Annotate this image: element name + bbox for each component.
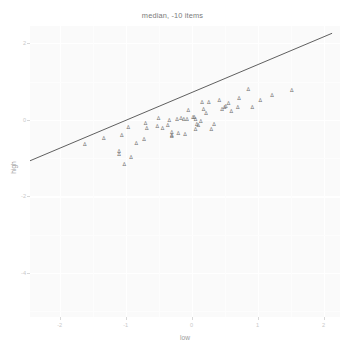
data-point: Δ — [183, 133, 187, 138]
y-tick-mark — [27, 273, 30, 274]
y-axis-title: high — [10, 148, 17, 188]
x-tick-mark — [258, 317, 259, 320]
data-point: Δ — [210, 127, 214, 132]
x-tick-mark — [192, 317, 193, 320]
data-point: Δ — [250, 105, 254, 110]
data-point: Δ — [157, 116, 161, 121]
data-point: Δ — [200, 100, 204, 105]
data-point: Δ — [207, 101, 211, 106]
data-point: Δ — [142, 138, 146, 143]
data-point: Δ — [236, 105, 240, 110]
data-point: Δ — [194, 127, 198, 132]
data-point: Δ — [212, 123, 216, 128]
y-tick-mark — [27, 120, 30, 121]
data-point: Δ — [237, 96, 241, 101]
plot-panel: ΔΔΔΔΔΔΔΔΔΔΔΔΔΔΔΔΔΔΔΔΔΔΔΔΔΔΔΔΔΔΔΔΔΔΔΔΔΔΔΔ… — [30, 26, 340, 317]
data-point: Δ — [199, 119, 203, 124]
x-tick-label: -1 — [123, 322, 128, 328]
data-point: Δ — [185, 118, 189, 123]
data-point: Δ — [102, 136, 106, 141]
x-tick-mark — [324, 317, 325, 320]
y-tick-label: 0 — [23, 117, 26, 123]
chart-figure: median, -10 items ΔΔΔΔΔΔΔΔΔΔΔΔΔΔΔΔΔΔΔΔΔΔ… — [0, 0, 345, 356]
data-point: Δ — [123, 162, 127, 167]
y-tick-label: -4 — [21, 270, 26, 276]
data-point: Δ — [290, 88, 294, 93]
data-point: Δ — [187, 109, 191, 114]
data-point: Δ — [258, 98, 262, 103]
y-tick-mark — [27, 43, 30, 44]
x-axis-title: low — [30, 334, 340, 341]
y-tick-mark — [27, 196, 30, 197]
data-point: Δ — [229, 110, 233, 115]
data-point: Δ — [144, 121, 148, 126]
data-points: ΔΔΔΔΔΔΔΔΔΔΔΔΔΔΔΔΔΔΔΔΔΔΔΔΔΔΔΔΔΔΔΔΔΔΔΔΔΔΔΔ… — [30, 26, 340, 317]
data-point: Δ — [83, 142, 87, 147]
data-point: Δ — [218, 99, 222, 104]
x-tick-label: 0 — [190, 322, 193, 328]
x-tick-label: -2 — [57, 322, 62, 328]
data-point: Δ — [145, 127, 149, 132]
data-point: Δ — [126, 126, 130, 131]
chart-title: median, -10 items — [0, 11, 345, 20]
data-point: Δ — [204, 112, 208, 117]
data-point: Δ — [170, 134, 174, 139]
data-point: Δ — [247, 87, 251, 92]
x-tick-label: 2 — [322, 322, 325, 328]
y-tick-label: -2 — [21, 193, 26, 199]
data-point: Δ — [227, 101, 231, 106]
data-point: Δ — [129, 155, 133, 160]
data-point: Δ — [270, 94, 274, 99]
data-point: Δ — [120, 133, 124, 138]
data-point: Δ — [166, 123, 170, 128]
data-point: Δ — [117, 153, 121, 158]
data-point: Δ — [177, 132, 181, 137]
data-point: Δ — [161, 126, 165, 131]
y-tick-label: 2 — [23, 40, 26, 46]
x-tick-label: 1 — [256, 322, 259, 328]
data-point: Δ — [156, 125, 160, 130]
data-point: Δ — [134, 141, 138, 146]
x-tick-mark — [60, 317, 61, 320]
x-tick-mark — [126, 317, 127, 320]
